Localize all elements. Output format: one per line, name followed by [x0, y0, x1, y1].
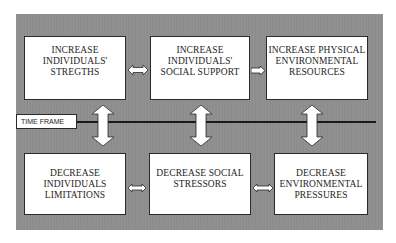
box-increase-individuals-strengths: INCREASE INDIVIDUALS' STREGTHS — [24, 36, 126, 100]
box-text-line: SOCIAL SUPPORT — [151, 67, 249, 78]
box-increase-individuals-social-support: INCREASE INDIVIDUALS' SOCIAL SUPPORT — [150, 36, 250, 100]
box-text-line: STRESSORS — [150, 179, 250, 190]
double-arrow-horizontal-icon — [253, 184, 273, 192]
timeframe-label: TIME FRAME — [16, 114, 77, 129]
box-decrease-social-stressors: DECREASE SOCIAL STRESSORS — [149, 153, 251, 215]
double-arrow-vertical-icon — [301, 105, 323, 146]
box-text-line: DECREASE — [25, 168, 125, 179]
double-arrow-horizontal-icon — [128, 184, 146, 192]
right-arrow-icon — [251, 66, 265, 75]
box-text-line: INCREASE — [25, 45, 125, 56]
box-text-line: INCREASE — [151, 45, 249, 56]
double-arrow-vertical-icon — [190, 105, 212, 146]
box-text-line: DECREASE SOCIAL — [150, 168, 250, 179]
box-increase-physical-environmental-resources: INCREASE PHYSICAL ENVIRONMENTAL RESOURCE… — [266, 36, 368, 100]
box-decrease-environmental-pressures: DECREASE ENVIRONMENTAL PRESSURES — [274, 153, 368, 215]
box-text-line: INDIVIDUALS' — [151, 56, 249, 67]
box-decrease-individuals-limitations: DECREASE INDIVIDUALS LIMITATIONS — [24, 153, 126, 215]
box-text-line: LIMITATIONS — [25, 190, 125, 201]
box-text-line: ENVIRONMENTAL — [267, 56, 367, 67]
box-text-line: ENVIRONMENTAL — [275, 179, 367, 190]
box-text-line: INCREASE PHYSICAL — [267, 45, 367, 56]
box-text-line: DECREASE — [275, 168, 367, 179]
double-arrow-horizontal-icon — [128, 65, 148, 75]
box-text-line: PRESSURES — [275, 190, 367, 201]
box-text-line: INDIVIDUALS' — [25, 56, 125, 67]
box-text-line: INDIVIDUALS — [25, 179, 125, 190]
box-text-line: STREGTHS — [25, 67, 125, 78]
double-arrow-vertical-icon — [92, 105, 114, 146]
timeframe-line — [77, 121, 376, 123]
box-text-line: RESOURCES — [267, 67, 367, 78]
